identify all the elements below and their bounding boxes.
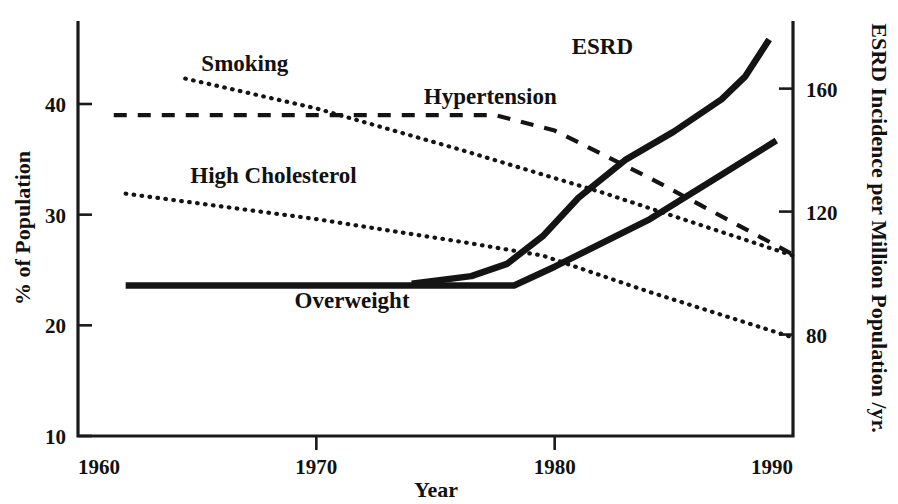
chart-background bbox=[0, 0, 898, 504]
bottom-tick-label-1990: 1990 bbox=[751, 455, 793, 479]
series-label-esrd: ESRD bbox=[572, 34, 633, 59]
left-tick-label-20: 20 bbox=[45, 314, 66, 338]
chart-figure: 10203040 80120160 1960197019801990 Smoki… bbox=[0, 0, 898, 504]
series-label-overweight: Overweight bbox=[295, 288, 410, 313]
left-tick-label-10: 10 bbox=[45, 425, 66, 449]
right-tick-label-120: 120 bbox=[806, 201, 838, 225]
left-tick-label-40: 40 bbox=[45, 93, 66, 117]
series-label-hypertension: Hypertension bbox=[424, 84, 557, 109]
bottom-tick-label-1970: 1970 bbox=[295, 455, 337, 479]
series-label-high-cholesterol: High Cholesterol bbox=[190, 163, 356, 188]
y-axis-title: % of Population bbox=[10, 151, 35, 305]
bottom-tick-label-1960: 1960 bbox=[78, 455, 120, 479]
bottom-tick-label-1980: 1980 bbox=[534, 455, 576, 479]
right-tick-label-160: 160 bbox=[806, 78, 838, 102]
x-axis-title: Year bbox=[414, 477, 458, 502]
right-tick-label-80: 80 bbox=[806, 324, 827, 348]
line-chart-svg: 10203040 80120160 1960197019801990 Smoki… bbox=[0, 0, 898, 504]
series-label-smoking: Smoking bbox=[201, 51, 288, 76]
left-tick-label-30: 30 bbox=[45, 204, 66, 228]
y2-axis-title: ESRD Incidence per Million Population /y… bbox=[867, 23, 892, 433]
